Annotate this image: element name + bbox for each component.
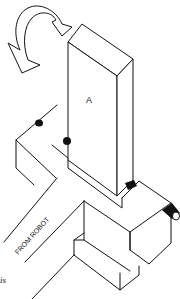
rotation-arrow-icon <box>8 6 72 73</box>
caption-fragment: is <box>0 275 7 285</box>
pin-icon <box>35 120 43 127</box>
gripper-diagram: A FROM ROBOT is <box>0 0 180 299</box>
block-label: A <box>86 95 92 105</box>
arm-label: FROM ROBOT <box>14 215 51 255</box>
pin-icon <box>63 137 71 145</box>
block-a <box>68 24 133 196</box>
